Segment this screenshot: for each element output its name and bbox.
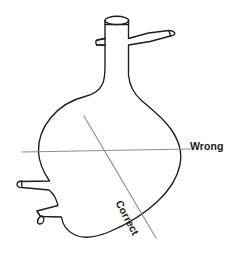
flask-illustration [0,0,233,257]
correct-axis-line [84,116,156,238]
left-upper-arm-upper-edge [96,39,105,41]
glassware-outline [17,16,181,237]
wrong-axis-line [22,149,190,152]
neck-rim-ellipse [105,16,129,24]
flask-body-outline [22,25,181,238]
bottom-left-arm-edge-hint [37,211,40,216]
wrong-label: Wrong [190,140,224,152]
diagram-canvas: Wrong Correct [0,0,233,257]
